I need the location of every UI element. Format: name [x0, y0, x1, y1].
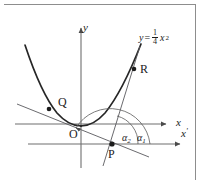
- equation-y: y: [139, 32, 143, 43]
- parabola-curve: [25, 44, 141, 126]
- point-label-r: R: [140, 63, 148, 75]
- alpha-2-subscript: 2: [127, 137, 131, 145]
- point-label-p: P: [108, 148, 115, 160]
- y-axis-label: y: [83, 22, 88, 33]
- x-prime-mark: ': [186, 127, 188, 136]
- point-label-origin: O: [69, 128, 78, 140]
- angle-label-alpha-1: α1: [137, 133, 146, 145]
- point-marker-p: [109, 141, 114, 146]
- angle-label-alpha-2: α2: [122, 133, 131, 145]
- equation-exponent: 2: [166, 34, 170, 42]
- figure-canvas: [0, 0, 204, 191]
- equation-fraction: 1 4: [152, 29, 158, 46]
- equation-denominator: 4: [152, 37, 158, 46]
- point-marker-r: [132, 67, 137, 72]
- point-label-q: Q: [58, 96, 67, 108]
- equation-numerator: 1: [152, 29, 158, 37]
- alpha-1-subscript: 1: [142, 137, 146, 145]
- math-figure: y = 1 4 x2 x y x' Q R P O α2 α1: [0, 0, 204, 191]
- point-marker-q: [47, 107, 52, 112]
- curve-equation-label: y = 1 4 x2: [139, 29, 169, 46]
- equation-variable: x: [160, 32, 164, 43]
- x-prime-axis-label: x': [181, 128, 188, 139]
- point-marker-origin: [80, 125, 82, 127]
- tangent-line-through-q: [17, 104, 149, 157]
- equation-equals: =: [144, 32, 150, 43]
